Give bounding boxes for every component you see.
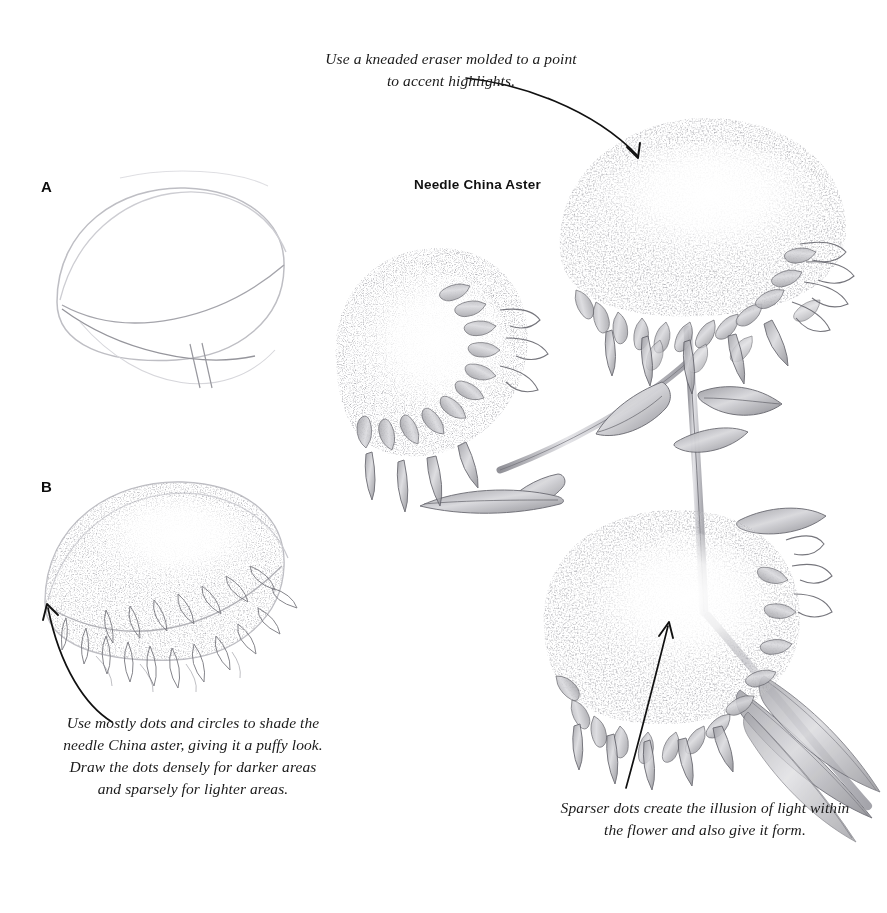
middle-left-flower xyxy=(326,240,548,512)
lower-flower-petals xyxy=(550,567,797,764)
drawing-plate: A B Needle China Aster Use a kneaded era… xyxy=(0,0,887,913)
step-b-sketch xyxy=(40,474,297,692)
caption-bottom-left: Use mostly dots and circles to shade the… xyxy=(62,712,324,800)
plate-title: Needle China Aster xyxy=(414,177,541,192)
step-a-sketch xyxy=(57,171,286,388)
leaves xyxy=(420,382,880,842)
arrow-left-to-step-b xyxy=(43,604,112,722)
annotation-arrows xyxy=(43,78,673,788)
upper-flower-petals xyxy=(567,242,823,376)
stems xyxy=(500,330,868,806)
arrow-right-to-lower-flower xyxy=(626,622,673,788)
caption-top: Use a kneaded eraser molded to a point t… xyxy=(320,48,582,92)
middle-flower-petals xyxy=(353,277,501,453)
step-label-a: A xyxy=(41,178,52,195)
upper-right-flower xyxy=(550,110,860,394)
lower-right-flower xyxy=(534,502,832,790)
step-label-b: B xyxy=(41,478,52,495)
caption-bottom-right: Sparser dots create the illusion of ligh… xyxy=(560,797,850,841)
